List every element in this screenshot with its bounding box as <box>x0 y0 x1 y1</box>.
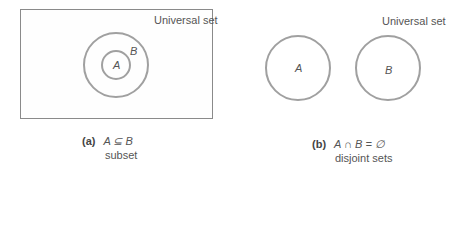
caption-b: (b)A ∩ B = ∅ disjoint sets <box>312 137 392 165</box>
caption-tag-b: (b) <box>312 138 326 150</box>
set-b-label-b: B <box>385 64 392 76</box>
set-a-label-b: A <box>294 62 302 74</box>
caption-expr-b: A ∩ B = ∅ <box>334 138 385 150</box>
caption-desc-b: disjoint sets <box>335 152 392 164</box>
